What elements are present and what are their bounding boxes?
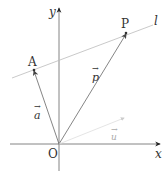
vector-diagram: y x O A P l →a →p →u xyxy=(0,0,165,171)
vector-arrow-icon: → xyxy=(111,126,118,134)
y-axis-label: y xyxy=(49,6,56,18)
vector-u-label: →u xyxy=(111,133,117,142)
point-a-label: A xyxy=(28,56,37,68)
vector-arrow-icon: → xyxy=(34,103,41,111)
x-axis-label: x xyxy=(155,148,162,160)
vector-a-label: →a xyxy=(34,110,41,121)
line-l-label: l xyxy=(154,15,158,27)
point-p-dot xyxy=(125,32,128,35)
diagram-svg xyxy=(0,0,165,171)
vector-arrow-icon: → xyxy=(92,65,99,73)
vector-p-label: →p xyxy=(92,72,99,83)
point-a-dot xyxy=(33,69,36,72)
point-p-label: P xyxy=(121,18,129,30)
origin-label: O xyxy=(48,148,58,160)
